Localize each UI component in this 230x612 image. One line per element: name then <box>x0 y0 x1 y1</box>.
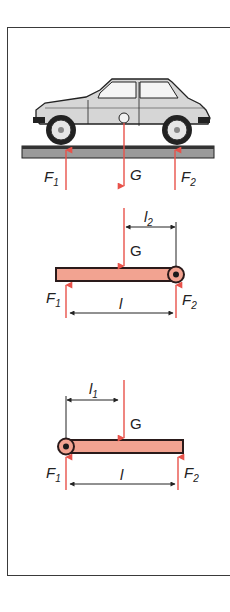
label-f1: F1 <box>46 464 61 484</box>
car-illustration <box>33 79 210 145</box>
beam-panel-pivot-left: l1 G F1 F2 l <box>46 380 199 490</box>
beam-panel-pivot-right: l2 G F1 F2 l <box>46 208 197 318</box>
label-f2: F2 <box>184 464 199 484</box>
label-g: G <box>130 166 142 183</box>
label-l2: l2 <box>144 208 153 228</box>
car-panel: F1 G F2 <box>22 79 214 190</box>
lever-diagram: F1 G F2 l2 G F1 F2 l l1 G F1 F2 l <box>0 0 230 612</box>
label-g: G <box>130 242 142 259</box>
beam <box>66 440 183 453</box>
label-g: G <box>130 415 142 432</box>
beam <box>56 268 176 281</box>
label-f1: F1 <box>44 168 59 188</box>
label-l1: l1 <box>89 380 98 400</box>
label-f1: F1 <box>46 289 61 309</box>
label-l: l <box>120 466 124 483</box>
label-l: l <box>119 295 123 312</box>
center-of-gravity <box>119 113 129 123</box>
label-f2: F2 <box>181 168 196 188</box>
label-f2: F2 <box>182 291 197 311</box>
